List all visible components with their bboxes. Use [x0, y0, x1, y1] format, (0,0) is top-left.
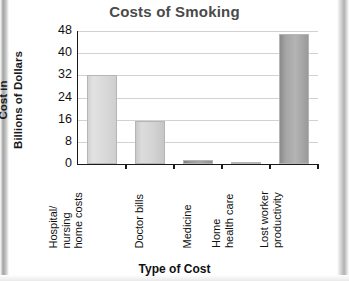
- x-axis-category-label-line: health care: [222, 168, 235, 248]
- y-axis-tick-label: 32: [48, 69, 72, 79]
- x-axis-category-labels: Hospital/nursinghome costsDoctor billsMe…: [77, 168, 317, 250]
- plot-area: 081624324048: [77, 31, 318, 165]
- y-axis-title: Cost in Billions of Dollars: [5, 30, 41, 170]
- x-axis-category-label: Lost workerproductivity: [269, 168, 317, 248]
- x-axis-category-label-line: nursing: [59, 168, 72, 248]
- y-axis-tick-label: 24: [48, 92, 72, 102]
- bar: [87, 75, 117, 164]
- x-axis-title: Type of Cost: [0, 262, 349, 276]
- x-axis-category-label: Hospital/nursinghome costs: [77, 168, 125, 248]
- y-axis-title-line-1: Cost in: [0, 30, 9, 170]
- x-axis-category-label-line: Doctor bills: [132, 168, 145, 248]
- gridline: [78, 31, 318, 32]
- x-axis-category-label-line: Lost worker: [258, 168, 271, 248]
- x-axis-tick: [317, 164, 318, 169]
- x-axis-category-label-line: Home: [210, 168, 223, 248]
- y-axis-title-line-2: Billions of Dollars: [13, 30, 24, 170]
- y-axis-tick-label: 40: [48, 47, 72, 57]
- chart-page: Costs of Smoking Cost in Billions of Dol…: [0, 0, 349, 281]
- bar: [135, 121, 165, 164]
- bar: [231, 162, 261, 164]
- x-axis-category-label-line: productivity: [270, 168, 283, 248]
- bar: [183, 160, 213, 164]
- y-axis-tick-label: 8: [48, 136, 72, 146]
- y-axis-tick-label: 16: [48, 114, 72, 124]
- y-axis-tick-label: 48: [48, 25, 72, 35]
- x-axis-category-label-line: Medicine: [180, 168, 193, 248]
- x-axis-category-label-line: Hospital/: [47, 168, 60, 248]
- bar: [279, 34, 309, 164]
- x-axis-category-label: Doctor bills: [125, 168, 173, 248]
- chart-title: Costs of Smoking: [0, 3, 349, 20]
- x-axis-category-label-line: home costs: [72, 168, 85, 248]
- y-axis-tick-label: 0: [48, 158, 72, 168]
- page-edge-shadow-right: [337, 0, 349, 281]
